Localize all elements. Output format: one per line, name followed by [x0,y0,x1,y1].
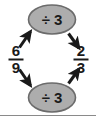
start-fraction-numerator: 6 [12,42,20,59]
operation-node-top-label: ÷ 3 [42,11,63,28]
result-fraction-denominator: 3 [77,59,85,76]
arrow-denominator-to-bottom-operation [20,70,31,86]
operation-node-bottom-label: ÷ 3 [42,89,63,106]
result-fraction-numerator: 2 [77,42,85,59]
operation-node-bottom: ÷ 3 [29,83,76,112]
operation-node-top: ÷ 3 [29,5,76,34]
arrow-numerator-to-top-operation [20,32,31,48]
diagram-canvas: ÷ 3 ÷ 3 6 9 2 3 [0,0,96,117]
start-fraction-denominator: 9 [12,59,20,76]
fraction-simplification-diagram: ÷ 3 ÷ 3 6 9 2 3 [0,0,96,117]
result-fraction: 2 3 [74,42,89,76]
